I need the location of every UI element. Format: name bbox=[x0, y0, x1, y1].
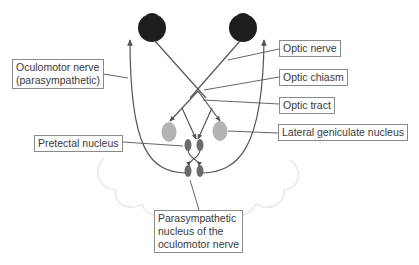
pretectal-to-ew-fibers bbox=[188, 150, 200, 166]
right-eye-icon bbox=[229, 13, 257, 42]
left-eye-icon bbox=[138, 13, 166, 42]
oculomotor-nerve-label: Oculomotor nerve (parasympathetic) bbox=[12, 59, 104, 89]
right-pretectal-nucleus bbox=[197, 139, 204, 151]
optic-chiasm-label: Optic chiasm bbox=[279, 69, 348, 86]
right-ew-nucleus bbox=[197, 165, 204, 177]
left-pretectal-nucleus bbox=[185, 139, 192, 151]
left-lateral-geniculate-nucleus bbox=[162, 122, 177, 142]
left-ew-nucleus bbox=[185, 165, 192, 177]
right-lateral-geniculate-nucleus bbox=[213, 121, 228, 141]
leader-lines bbox=[103, 49, 279, 210]
pretectal-nucleus-label: Pretectal nucleus bbox=[34, 135, 123, 152]
optic-nerve-label: Optic nerve bbox=[279, 40, 341, 57]
parasympathetic-nucleus-label: Parasympathetic nucleus of the oculomoto… bbox=[154, 210, 243, 253]
optic-tract-label: Optic tract bbox=[279, 97, 335, 114]
optic-tracts bbox=[170, 91, 220, 139]
lateral-geniculate-nucleus-label: Lateral geniculate nucleus bbox=[278, 124, 408, 141]
optic-nerves bbox=[155, 41, 240, 98]
oculomotor-nerves bbox=[130, 40, 264, 173]
